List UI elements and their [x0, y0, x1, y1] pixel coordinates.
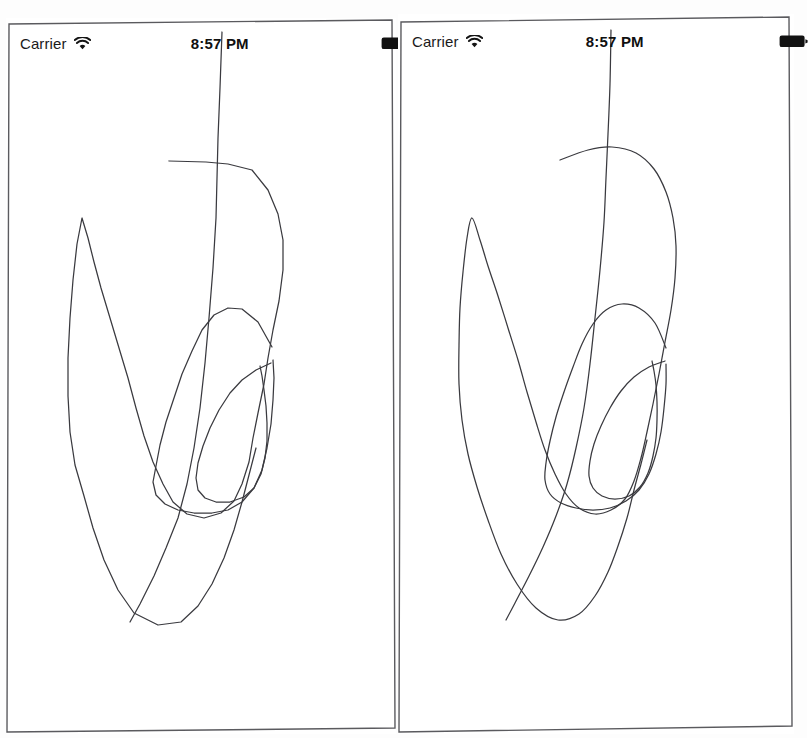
smoothed-canvas[interactable] — [398, 14, 794, 734]
middle-loop-stroke — [545, 304, 666, 510]
smoothed-stroke-panel: Carrier 8:57 PM — [398, 14, 794, 734]
raw-stroke-panel: Carrier 8:57 PM — [6, 18, 396, 734]
long-diagonal-stroke — [130, 32, 222, 622]
long-diagonal-stroke — [506, 30, 611, 620]
smoothed-ink-group — [459, 30, 676, 620]
device-frame-outline — [7, 20, 395, 732]
inner-loop-stroke — [589, 361, 665, 499]
raw-ink-group — [68, 32, 283, 625]
raw-canvas[interactable] — [6, 18, 396, 734]
middle-loop-stroke — [153, 308, 274, 513]
inner-loop-stroke — [196, 363, 271, 502]
device-frame-outline — [399, 17, 792, 732]
